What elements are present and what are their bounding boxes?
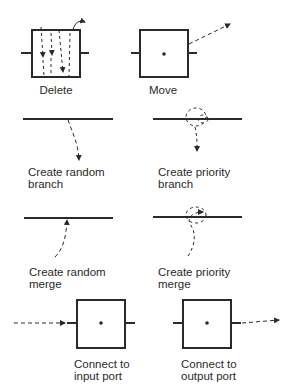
input-connect-center-dot (99, 321, 103, 325)
connect-to-input-port-label-line-2: input port (74, 370, 130, 382)
output-connect-center-dot (205, 321, 209, 325)
operations-diagram (0, 0, 298, 390)
create-priority-merge-label-line-2: merge (158, 278, 230, 290)
create-random-merge-label-line-1: Create random (29, 266, 106, 278)
priority-branch-circle-icon (186, 108, 208, 126)
connect-to-output-port-label-line-1: Connect to (181, 358, 237, 370)
create-random-branch-label-line-1: Create random (28, 166, 105, 178)
random-merge-arrow-icon (55, 220, 67, 257)
output-connect-arrow-icon (242, 320, 279, 323)
create-priority-branch-label: Create priority branch (158, 166, 230, 190)
create-priority-merge-label: Create priority merge (158, 266, 230, 290)
random-branch-arrow-icon (68, 120, 79, 160)
delete-panel (21, 21, 89, 77)
create-random-merge-label-line-2: merge (29, 278, 106, 290)
move-drag-arrow-icon (189, 24, 230, 44)
create-random-branch-panel (23, 119, 113, 160)
create-random-branch-label: Create random branch (28, 166, 105, 190)
create-priority-branch-label-line-2: branch (158, 178, 230, 190)
move-label-line-1: Move (149, 84, 177, 96)
create-priority-merge-label-line-1: Create priority (158, 266, 230, 278)
move-center-dot (162, 52, 166, 56)
connect-to-input-port-label: Connect to input port (74, 358, 130, 382)
connect-to-input-port-panel (14, 300, 135, 348)
create-random-merge-panel (24, 218, 113, 257)
create-random-branch-label-line-2: branch (28, 178, 105, 190)
create-priority-branch-panel (153, 108, 242, 151)
connect-to-output-port-label: Connect to output port (181, 358, 237, 382)
move-panel (131, 24, 230, 77)
delete-label-line-1: Delete (39, 84, 72, 96)
connect-to-output-port-panel (173, 300, 279, 348)
connect-to-input-port-label-line-1: Connect to (74, 358, 130, 370)
connect-to-output-port-label-line-2: output port (181, 370, 237, 382)
create-random-merge-label: Create random merge (29, 266, 106, 290)
delete-block-box (32, 30, 80, 77)
priority-branch-arrow-icon (195, 127, 197, 151)
move-label: Move (149, 84, 177, 96)
create-priority-branch-label-line-1: Create priority (158, 166, 230, 178)
create-priority-merge-panel (153, 207, 242, 256)
delete-label: Delete (39, 84, 72, 96)
priority-merge-arrow-icon (188, 212, 203, 256)
